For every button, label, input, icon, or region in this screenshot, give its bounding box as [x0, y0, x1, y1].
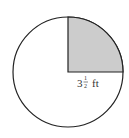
radius-denominator: 2	[84, 83, 87, 89]
radius-numerator: 1	[84, 75, 87, 81]
shaded-quarter-sector	[68, 17, 123, 72]
radius-unit: ft	[92, 77, 99, 89]
radius-whole: 3	[77, 77, 83, 89]
circle-diagram: 3 1 2 ft	[0, 0, 129, 138]
